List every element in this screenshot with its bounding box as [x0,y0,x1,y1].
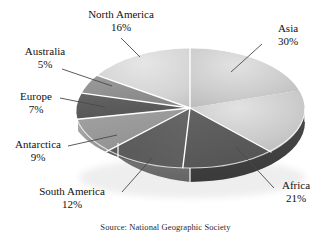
label-africa: Africa 21% [272,179,320,204]
label-north-america-name: North America [73,8,169,21]
label-antarctica-name: Antarctica [3,138,73,151]
label-africa-name: Africa [272,179,320,192]
label-south-america: South America 12% [20,185,124,210]
leader-north-america [121,38,140,57]
label-europe-pct: 7% [8,103,64,116]
pie-chart-figure: North America 16% Asia 30% Australia 5% … [0,0,331,239]
label-europe: Europe 7% [8,90,64,115]
label-asia-name: Asia [265,22,311,35]
label-south-america-name: South America [20,185,124,198]
label-australia-pct: 5% [14,58,76,71]
label-africa-pct: 21% [272,192,320,205]
label-north-america: North America 16% [73,8,169,33]
label-north-america-pct: 16% [73,21,169,34]
label-asia-pct: 30% [265,35,311,48]
label-asia: Asia 30% [265,22,311,47]
label-australia-name: Australia [14,45,76,58]
label-antarctica-pct: 9% [3,151,73,164]
chart-source-caption: Source: National Geographic Society [0,222,331,232]
label-antarctica: Antarctica 9% [3,138,73,163]
label-europe-name: Europe [8,90,64,103]
label-australia: Australia 5% [14,45,76,70]
label-south-america-pct: 12% [20,198,124,211]
